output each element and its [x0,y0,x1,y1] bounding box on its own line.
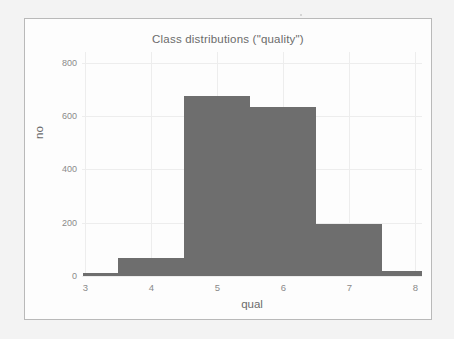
chart-title: Class distributions ("quality") [25,33,431,45]
histogram-bar [118,258,184,276]
screenshot-canvas: Class distributions ("quality") no 02004… [0,0,454,339]
chart-panel: Class distributions ("quality") no 02004… [24,18,432,320]
scan-speck-artifact [300,14,302,16]
x-tick-label: 7 [347,282,352,293]
histogram-bar [382,271,422,276]
x-tick-label: 4 [149,282,154,293]
x-tick-label: 3 [83,282,88,293]
gridline-vertical [85,52,86,276]
gridline-horizontal [82,276,422,277]
histogram-bar [184,96,250,276]
y-axis-label: no [33,126,45,139]
gridline-vertical [151,52,152,276]
histogram-bar [83,273,118,276]
x-axis-label: qual [82,298,422,310]
gridline-vertical [415,52,416,276]
y-tick-label: 400 [62,164,77,174]
y-tick-label: 800 [62,58,77,68]
x-tick-label: 8 [413,282,418,293]
y-tick-label: 200 [62,218,77,228]
y-tick-label: 0 [72,271,77,281]
gridline-horizontal [82,63,422,64]
x-tick-label: 6 [281,282,286,293]
y-tick-label: 600 [62,111,77,121]
histogram-bar [250,107,316,276]
plot-area: 0200400600800 345678 qual [82,52,422,276]
x-tick-label: 5 [215,282,220,293]
histogram-bar [316,224,382,276]
